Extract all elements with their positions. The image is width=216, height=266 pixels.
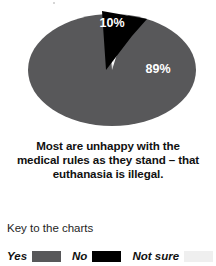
scan-speck bbox=[53, 2, 55, 4]
legend-label-not-sure: Not sure bbox=[132, 250, 179, 262]
caption-line-1: Most are unhappy with the bbox=[36, 139, 180, 152]
legend-label-yes: Yes bbox=[7, 250, 27, 262]
page-root: 10% 89% Most are unhappy with the medica… bbox=[0, 0, 216, 266]
chart-caption: Most are unhappy with the medical rules … bbox=[6, 139, 210, 182]
legend-item-not-sure: Not sure bbox=[132, 248, 213, 264]
legend-item-no: No bbox=[72, 248, 132, 264]
legend-label-no: No bbox=[72, 250, 87, 262]
legend-swatch-no bbox=[92, 251, 121, 262]
pie-chart: 10% 89% bbox=[0, 0, 216, 132]
legend-item-yes: Yes bbox=[7, 248, 72, 264]
key-title: Key to the charts bbox=[7, 222, 93, 234]
caption-line-2: medical rules as they stand – that bbox=[17, 153, 199, 166]
chart-legend: Yes No Not sure bbox=[7, 248, 212, 264]
caption-line-3: euthanasia is illegal. bbox=[53, 167, 164, 180]
legend-swatch-yes bbox=[32, 251, 61, 262]
pie-label-yes: 89% bbox=[145, 62, 170, 76]
pie-chart-svg: 10% 89% bbox=[0, 0, 216, 132]
pie-label-no: 10% bbox=[99, 16, 124, 30]
legend-swatch-not-sure bbox=[184, 251, 213, 262]
